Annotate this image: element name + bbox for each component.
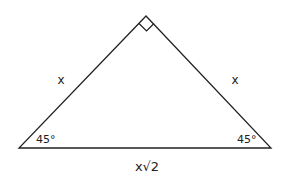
triangle-diagram: x x 45° 45° x√2: [0, 0, 287, 180]
right-angle-label: 45°: [237, 133, 257, 146]
right-angle-marker: [139, 24, 154, 32]
left-angle-label: 45°: [36, 133, 56, 146]
hypotenuse-label: x√2: [135, 159, 159, 174]
left-leg-label: x: [57, 73, 64, 87]
right-leg-label: x: [231, 73, 238, 87]
